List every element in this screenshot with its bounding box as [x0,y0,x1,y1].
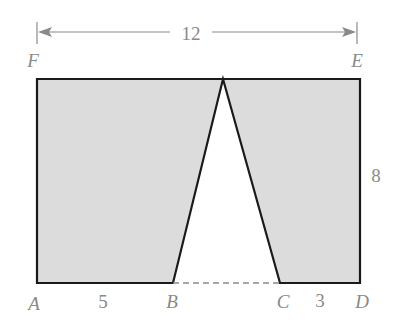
point-label-D: D [354,291,369,312]
dimension-label-8: 8 [371,165,381,186]
diagram-canvas: 12 F E 8 A 5 B C 3 D [0,0,399,330]
dimension-label-12: 12 [182,23,201,44]
point-label-E: E [350,50,363,71]
point-label-F: F [26,50,39,71]
point-label-B: B [166,291,178,312]
dimension-label-3: 3 [315,290,325,311]
shaded-region [37,79,360,283]
point-label-C: C [277,291,290,312]
geometry-diagram: 12 F E 8 A 5 B C 3 D [0,0,399,330]
dimension-label-5: 5 [98,291,108,312]
point-label-A: A [26,293,40,314]
